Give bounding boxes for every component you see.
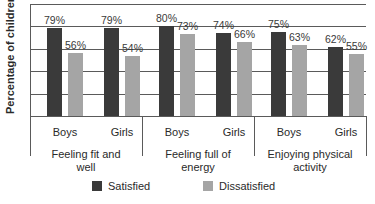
satisfied-bar bbox=[271, 32, 286, 116]
legend-item-dissatisfied: Dissatisfied bbox=[203, 180, 275, 192]
y-axis-label: Percentage of children bbox=[4, 4, 18, 114]
subcategory-label: Boys bbox=[157, 126, 197, 138]
group-label: Feeling fit andwell bbox=[30, 148, 142, 174]
plot-area: 79%56%79%54%80%73%74%66%75%63%62%55% bbox=[30, 4, 366, 116]
dissatisfied-bar bbox=[125, 56, 140, 116]
data-label: 73% bbox=[177, 20, 198, 32]
data-label: 66% bbox=[234, 28, 255, 40]
dissatisfied-bar bbox=[237, 42, 252, 116]
dissatisfied-bar bbox=[349, 54, 364, 116]
gridline bbox=[30, 116, 366, 117]
data-label: 56% bbox=[65, 39, 86, 51]
dissatisfied-swatch bbox=[203, 181, 213, 191]
group-divider bbox=[366, 116, 367, 156]
legend-item-satisfied: Satisfied bbox=[92, 180, 150, 192]
satisfied-bar bbox=[104, 28, 119, 116]
data-label: 54% bbox=[122, 42, 143, 54]
dissatisfied-bar bbox=[292, 45, 307, 116]
data-label: 79% bbox=[44, 14, 65, 26]
dissatisfied-bar bbox=[68, 53, 83, 116]
gridline bbox=[30, 4, 366, 5]
data-label: 80% bbox=[156, 12, 177, 24]
data-label: 79% bbox=[101, 14, 122, 26]
data-label: 75% bbox=[268, 18, 289, 30]
satisfied-bar bbox=[47, 28, 62, 116]
subcategory-label: Girls bbox=[214, 126, 254, 138]
subcategory-label: Girls bbox=[326, 126, 366, 138]
satisfied-swatch bbox=[92, 181, 102, 191]
subcategory-label: Boys bbox=[269, 126, 309, 138]
group-label: Enjoying physicalactivity bbox=[254, 148, 366, 174]
dissatisfied-bar bbox=[180, 34, 195, 116]
subcategory-label: Girls bbox=[102, 126, 142, 138]
data-label: 74% bbox=[213, 19, 234, 31]
data-label: 62% bbox=[325, 33, 346, 45]
legend-label-dissatisfied: Dissatisfied bbox=[219, 180, 275, 192]
satisfied-bar bbox=[216, 33, 231, 116]
group-label: Feeling full ofenergy bbox=[142, 148, 254, 174]
satisfied-bar bbox=[159, 26, 174, 116]
data-label: 63% bbox=[289, 31, 310, 43]
satisfied-bar bbox=[328, 47, 343, 116]
subcategory-label: Boys bbox=[45, 126, 85, 138]
legend-label-satisfied: Satisfied bbox=[108, 180, 150, 192]
data-label: 55% bbox=[346, 40, 367, 52]
